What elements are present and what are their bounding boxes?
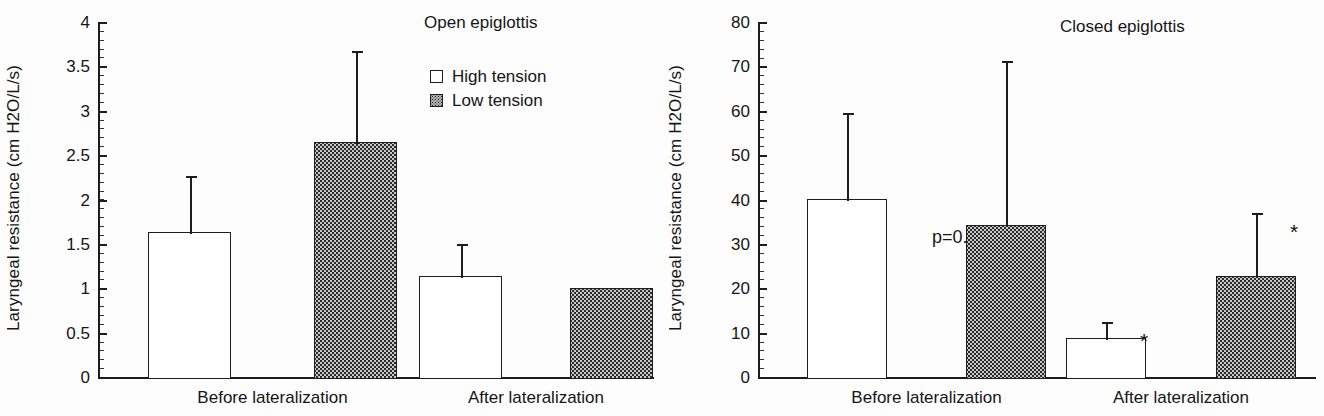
bar-low-tension: [966, 225, 1046, 379]
significance-asterisk: *: [1290, 221, 1298, 242]
y-axis-tick-label: 0: [696, 369, 750, 386]
y-axis-minor-tick: [100, 208, 104, 209]
y-axis-minor-tick: [760, 306, 764, 307]
y-axis-minor-tick: [100, 306, 104, 307]
chart-panel-closed-epiglottis: Laryngeal resistance (cm H2O/L/s) Closed…: [662, 0, 1324, 416]
y-axis-minor-tick: [100, 297, 104, 298]
y-axis-tick-label: 40: [696, 192, 750, 209]
y-axis-minor-tick: [760, 324, 764, 325]
y-axis-minor-tick: [760, 235, 764, 236]
y-axis-minor-tick: [760, 262, 764, 263]
y-axis-minor-tick: [760, 279, 764, 280]
y-axis-tick-label: 80: [696, 14, 750, 31]
error-bar-cap: [457, 244, 468, 246]
y-axis-minor-tick: [100, 40, 104, 41]
y-axis-minor-tick: [100, 164, 104, 165]
y-axis-minor-tick: [100, 128, 104, 129]
y-axis-major-tick: [100, 155, 107, 157]
y-axis-tick-label: 4: [36, 14, 90, 31]
y-axis-minor-tick: [760, 226, 764, 227]
y-axis-major-tick: [100, 288, 107, 290]
y-axis-major-tick: [100, 377, 107, 379]
y-axis-tick-label: 10: [696, 325, 750, 342]
y-axis-minor-tick: [760, 40, 764, 41]
error-bar-stem: [1106, 322, 1108, 340]
y-axis-tick-label: 20: [696, 280, 750, 297]
y-axis-minor-tick: [760, 359, 764, 360]
error-bar-cap: [186, 176, 197, 178]
y-axis-minor-tick: [100, 137, 104, 138]
y-axis-tick-label: 0.5: [36, 325, 90, 342]
x-axis-category-label: After lateralization: [1006, 389, 1324, 406]
y-axis-major-tick: [760, 22, 767, 24]
y-axis-major-tick: [760, 200, 767, 202]
y-axis-minor-tick: [760, 182, 764, 183]
plot-area: 00.511.522.533.54Before lateralizationAf…: [0, 0, 662, 416]
y-axis-major-tick: [100, 333, 107, 335]
y-axis-minor-tick: [100, 191, 104, 192]
y-axis-tick-label: 50: [696, 147, 750, 164]
bar-low-tension: [570, 288, 653, 379]
y-axis-minor-tick: [100, 120, 104, 121]
y-axis-minor-tick: [100, 271, 104, 272]
y-axis-tick-label: 2.5: [36, 147, 90, 164]
y-axis-minor-tick: [100, 173, 104, 174]
y-axis-tick-label: 3: [36, 103, 90, 120]
y-axis-major-tick: [760, 66, 767, 68]
y-axis-minor-tick: [760, 31, 764, 32]
error-bar-stem: [847, 113, 849, 201]
y-axis-tick-label: 1: [36, 280, 90, 297]
y-axis-minor-tick: [760, 271, 764, 272]
y-axis-minor-tick: [100, 57, 104, 58]
error-bar-cap: [843, 113, 854, 115]
y-axis-minor-tick: [100, 324, 104, 325]
y-axis-minor-tick: [100, 102, 104, 103]
y-axis-minor-tick: [760, 164, 764, 165]
y-axis-minor-tick: [100, 226, 104, 227]
y-axis-minor-tick: [760, 368, 764, 369]
x-axis-category-label: After lateralization: [359, 389, 713, 406]
y-axis-minor-tick: [760, 191, 764, 192]
y-axis-major-tick: [100, 244, 107, 246]
y-axis-tick-label: 60: [696, 103, 750, 120]
y-axis-minor-tick: [760, 146, 764, 147]
y-axis-minor-tick: [760, 58, 764, 59]
y-axis-minor-tick: [100, 182, 104, 183]
bar-high-tension: [148, 232, 231, 379]
y-axis-minor-tick: [760, 253, 764, 254]
y-axis-minor-tick: [100, 146, 104, 147]
y-axis-minor-tick: [100, 279, 104, 280]
y-axis-tick-label: 3.5: [36, 58, 90, 75]
y-axis-minor-tick: [100, 84, 104, 85]
error-bar-stem: [190, 176, 192, 234]
error-bar-stem: [461, 244, 463, 278]
error-bar-cap: [1002, 61, 1013, 63]
error-bar-stem: [1006, 61, 1008, 227]
y-axis-minor-tick: [760, 84, 764, 85]
y-axis-minor-tick: [760, 93, 764, 94]
y-axis-minor-tick: [760, 49, 764, 50]
y-axis-major-tick: [100, 111, 107, 113]
y-axis-minor-tick: [100, 342, 104, 343]
error-bar-stem: [1256, 213, 1258, 278]
y-axis-minor-tick: [100, 262, 104, 263]
y-axis-major-tick: [100, 22, 107, 24]
y-axis-major-tick: [760, 288, 767, 290]
y-axis-major-tick: [760, 377, 767, 379]
y-axis-minor-tick: [100, 217, 104, 218]
y-axis-minor-tick: [760, 342, 764, 343]
y-axis-major-tick: [760, 333, 767, 335]
y-axis-tick-label: 70: [696, 58, 750, 75]
y-axis-major-tick: [760, 111, 767, 113]
chart-panel-open-epiglottis: Laryngeal resistance (cm H2O/L/s) Open e…: [0, 0, 662, 416]
bar-low-tension: [1216, 276, 1296, 379]
y-axis-minor-tick: [760, 75, 764, 76]
y-axis-minor-tick: [760, 173, 764, 174]
figure-two-panel-bar-chart: Laryngeal resistance (cm H2O/L/s) Open e…: [0, 0, 1324, 416]
y-axis-minor-tick: [760, 137, 764, 138]
y-axis-major-tick: [100, 200, 107, 202]
y-axis-major-tick: [760, 244, 767, 246]
error-bar-stem: [356, 51, 358, 144]
error-bar-cap: [1102, 322, 1113, 324]
y-axis-major-tick: [100, 66, 107, 68]
